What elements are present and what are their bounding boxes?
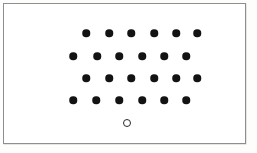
filled-dot-marker (150, 29, 158, 37)
filled-dot-marker (193, 74, 201, 82)
figure-root (0, 0, 257, 153)
filled-dot-marker (69, 96, 77, 104)
filled-dot-marker (193, 29, 201, 37)
filled-dot-marker (160, 96, 168, 104)
filled-dot-marker (105, 29, 113, 37)
filled-dot-marker (82, 74, 90, 82)
filled-dot-marker (69, 52, 77, 60)
filled-dot-marker (127, 29, 135, 37)
filled-dot-marker (127, 74, 135, 82)
filled-dot-marker (115, 52, 123, 60)
filled-dot-marker (115, 96, 123, 104)
filled-dot-marker (92, 96, 100, 104)
filled-dot-marker (172, 29, 180, 37)
hollow-dot-marker (123, 119, 131, 127)
filled-dot-marker (150, 74, 158, 82)
filled-dot-marker (105, 74, 113, 82)
filled-dot-marker (172, 74, 180, 82)
filled-dot-marker (160, 52, 168, 60)
filled-dot-marker (138, 52, 146, 60)
figure-frame (3, 3, 246, 144)
filled-dot-marker (82, 29, 90, 37)
filled-dot-marker (182, 52, 190, 60)
dot-field (4, 4, 245, 143)
filled-dot-marker (138, 96, 146, 104)
filled-dot-marker (182, 96, 190, 104)
filled-dot-marker (93, 52, 101, 60)
